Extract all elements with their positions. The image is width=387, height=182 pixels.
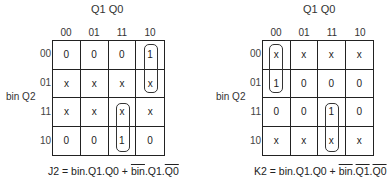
col-header: 10: [136, 27, 164, 38]
row-header: 00: [241, 48, 261, 59]
col-header: 01: [80, 27, 108, 38]
row-header: 10: [241, 135, 261, 146]
row-header: 11: [31, 106, 51, 117]
equation-term: bin.Q1.Q0: [279, 165, 327, 177]
kmap-cell: x: [346, 41, 374, 70]
kmap-cell: 0: [263, 98, 291, 127]
equation-operator: +: [327, 165, 339, 177]
group-loop: [325, 103, 339, 152]
row-header: 10: [31, 135, 51, 146]
kmap-cell: x: [136, 98, 164, 127]
col-header: 00: [262, 27, 290, 38]
kmap-cell: x: [81, 70, 109, 99]
kmap-cell: x: [53, 98, 81, 127]
group-loop: [144, 44, 158, 93]
col-header: 10: [346, 27, 374, 38]
group-loop: [269, 44, 283, 93]
equation-term: .Q1.: [145, 165, 165, 177]
kmap-cell: x: [346, 127, 374, 156]
row-header: 01: [31, 77, 51, 88]
col-header: 00: [52, 27, 80, 38]
equation-lhs: K2 =: [254, 165, 279, 177]
kmap-cell: 0: [136, 127, 164, 156]
equation-term-negated: Q0: [165, 165, 179, 177]
kmap-cell: 0: [81, 127, 109, 156]
group-loop: [116, 103, 130, 152]
row-header: 00: [31, 48, 51, 59]
kmap-cell: x: [318, 41, 346, 70]
kmap-cell: 0: [346, 70, 374, 99]
equation-k2: K2 = bin.Q1.Q0 + bin.Q1.Q0: [254, 165, 387, 177]
kmap-cell: 0: [291, 70, 319, 99]
kmap-cell: 0: [81, 41, 109, 70]
kmap-cell: 0: [109, 41, 137, 70]
col-variable-label: Q1 Q0: [303, 3, 335, 15]
kmap-cell: x: [53, 70, 81, 99]
col-header: 01: [290, 27, 318, 38]
kmap-cell: x: [81, 98, 109, 127]
kmap-cell: 0: [53, 41, 81, 70]
equation-j2: J2 = bin.Q1.Q0 + bin.Q1.Q0: [48, 165, 179, 177]
col-header: 11: [318, 27, 346, 38]
row-variable-label: bin Q2: [6, 91, 35, 102]
equation-term-negated: bin: [131, 165, 145, 177]
equation-term-negated: Q0: [373, 165, 387, 177]
equation-term-negated: bin: [339, 165, 353, 177]
equation-term-negated: Q1: [356, 165, 370, 177]
equation-operator: +: [119, 165, 131, 177]
kmap-cell: 0: [53, 127, 81, 156]
kmap-cell: x: [263, 127, 291, 156]
kmap-cell: x: [109, 70, 137, 99]
kmap-cell: x: [291, 41, 319, 70]
kmap-cell: 0: [291, 98, 319, 127]
equation-lhs: J2 =: [48, 165, 71, 177]
col-header: 11: [108, 27, 136, 38]
equation-term: bin.Q1.Q0: [71, 165, 119, 177]
kmap-cell: 0: [318, 70, 346, 99]
col-variable-label: Q1 Q0: [91, 3, 123, 15]
row-variable-label: bin Q2: [216, 91, 245, 102]
kmap-cell: x: [291, 127, 319, 156]
kmap-cell: 0: [346, 98, 374, 127]
row-header: 01: [241, 77, 261, 88]
row-header: 11: [241, 106, 261, 117]
